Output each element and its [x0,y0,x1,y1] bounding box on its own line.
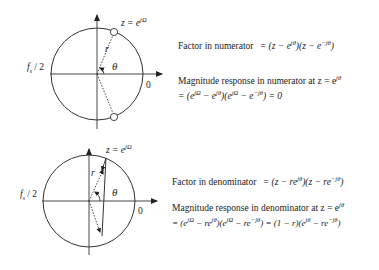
bottom-zero-freq-label: 0 [138,206,143,217]
top-fs-half-label: fs / 2 [27,62,44,77]
bottom-z-label: z = ejΩ [106,141,132,156]
top-z-label-text: z = e [121,18,140,28]
top-magnitude-label-line: Magnitude response in numerator at z = e… [178,72,341,87]
expr-part: − re [194,218,212,228]
bottom-radius-lower [89,201,100,232]
bottom-factor-line: Factor in denominator = (z − rejθ)(z − r… [172,173,344,188]
bottom-fs-rest: / 2 [25,189,37,199]
top-magnitude-label: Magnitude response in numerator at z = e [178,76,336,86]
expr-sup: −jθ [331,175,340,182]
top-zero-marker-lower [110,113,117,120]
expr-part: )(e [217,218,227,228]
expr-sup: −jθ [328,216,337,223]
expr-part: )(e [221,91,232,101]
top-theta-label: θ [112,61,117,72]
top-z-label-sup: jΩ [140,16,147,23]
top-zero-freq-label: 0 [146,80,151,91]
expr-part: = (z − re [263,177,297,187]
bottom-factor-label: Factor in denominator [172,177,256,187]
bottom-z-label-text: z = e [106,145,125,155]
top-factor-line: Factor in numerator = (z − ejθ)(z − e−jθ… [178,37,334,52]
expr-sup: −jθ [321,39,330,46]
bottom-theta-label: θ [112,187,117,198]
bottom-z-label-sup: jΩ [125,143,132,150]
expr-part: − e [238,91,253,101]
bottom-chord-line [102,158,106,236]
top-magnitude-sup: jθ [336,74,341,81]
expr-part: = (e [172,218,187,228]
top-factor-label: Factor in numerator [178,41,253,51]
bottom-magnitude-expr: = (ejΩ − rejθ)(ejΩ − re−jθ) = (1 − r)(ej… [172,214,341,229]
expr-part: ) [338,218,341,228]
expr-part: = (z − e [260,41,291,51]
bottom-fs-half-label: fs / 2 [20,189,37,204]
expr-part: ) = 0 [263,91,282,101]
expr-part: ) [331,41,334,51]
expr-part: − re [310,218,328,228]
expr-part: ) = (1 − r)(e [260,218,305,228]
expr-sup: −jθ [251,216,260,223]
top-unit-circle-diagram [50,15,162,129]
top-factor-expr: = (z − ejθ)(z − e−jθ) [260,41,334,51]
expr-part: )(z − e [296,41,321,51]
bottom-theta-arc [95,192,100,201]
top-magnitude-expr: = (ejΩ − ejθ)(ejΩ − e−jθ) = 0 [178,87,282,102]
expr-part: ) [340,177,343,187]
expr-part: − re [233,218,251,228]
expr-part: )(z − re [302,177,331,187]
top-theta-arc [100,68,104,74]
bottom-unit-circle-diagram [42,149,157,255]
top-z-label: z = ejΩ [121,14,147,29]
bottom-magnitude-sup: jθ [339,201,344,208]
bottom-magnitude-label: Magnitude response in denominator at z =… [172,203,339,213]
top-radius-lower [97,74,113,113]
bottom-r-label: r [91,168,95,179]
top-r-label: r [105,44,109,55]
top-fs-rest: / 2 [32,62,44,72]
expr-part: = (e [178,91,194,101]
expr-sup: −jθ [254,89,263,96]
expr-part: − e [201,91,216,101]
bottom-magnitude-label-line: Magnitude response in denominator at z =… [172,199,344,214]
top-zero-marker-upper [110,28,117,35]
bottom-factor-expr: = (z − rejθ)(z − re−jθ) [263,177,344,187]
